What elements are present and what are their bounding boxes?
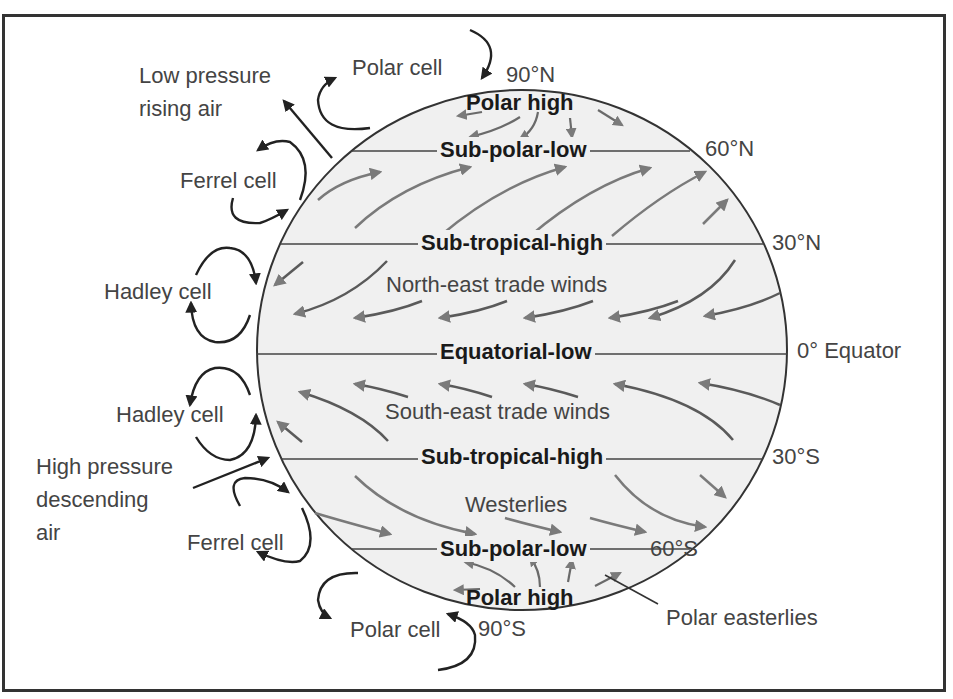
cell-hadley-north: Hadley cell — [104, 279, 212, 304]
wind-se-trades: South-east trade winds — [385, 399, 610, 425]
ferrel-cell-north-arrow-2 — [232, 198, 287, 223]
cell-ferrel-north: Ferrel cell — [180, 168, 277, 193]
hadley-cell-south-arrow-1 — [190, 368, 250, 405]
wind-westerlies: Westerlies — [465, 492, 567, 518]
label-60n: 60°N — [705, 136, 754, 161]
annotation-high-pressure-3: air — [36, 520, 60, 545]
zone-polar-high-north: Polar high — [463, 90, 577, 116]
hadley-cell-north-arrow-1 — [196, 248, 256, 283]
label-60s: 60°S — [650, 536, 698, 561]
annotation-low-pressure-1: Low pressure — [139, 63, 271, 88]
high-pressure-descending-arrow — [193, 458, 268, 488]
polar-cell-north-arrow-up — [318, 78, 370, 129]
label-90s: 90°S — [478, 616, 526, 641]
annotation-high-pressure-2: descending — [36, 487, 149, 512]
label-30s: 30°S — [772, 444, 820, 469]
ferrel-cell-south-arrow-1 — [234, 478, 288, 506]
polar-cell-north-arrow-down — [470, 30, 491, 78]
zone-polar-high-south: Polar high — [463, 585, 577, 611]
cell-hadley-south: Hadley cell — [116, 402, 224, 427]
label-30n: 30°N — [772, 230, 821, 255]
annotation-low-pressure-2: rising air — [139, 96, 222, 121]
zone-sub-polar-low-north: Sub-polar-low — [437, 137, 590, 163]
cell-polar-south: Polar cell — [350, 617, 440, 642]
zone-sub-tropical-high-north: Sub-tropical-high — [418, 230, 606, 256]
label-equator: 0° Equator — [797, 338, 901, 363]
wind-ne-trades: North-east trade winds — [386, 272, 607, 298]
zone-equatorial-low: Equatorial-low — [437, 339, 595, 365]
label-90n: 90°N — [506, 62, 555, 87]
hadley-cell-north-arrow-2 — [191, 303, 250, 342]
cell-ferrel-south: Ferrel cell — [187, 530, 284, 555]
wind-polar-easterlies: Polar easterlies — [666, 605, 818, 630]
low-pressure-rising-arrow — [284, 101, 332, 158]
polar-cell-south-arrow-2 — [438, 614, 475, 670]
zone-sub-tropical-high-south: Sub-tropical-high — [418, 444, 606, 470]
zone-sub-polar-low-south: Sub-polar-low — [437, 536, 590, 562]
annotation-high-pressure-1: High pressure — [36, 454, 173, 479]
polar-cell-south-arrow-1 — [318, 573, 358, 618]
cell-polar-north: Polar cell — [352, 55, 442, 80]
